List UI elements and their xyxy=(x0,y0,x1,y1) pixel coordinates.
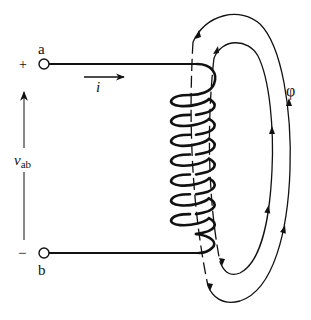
terminal-a-node xyxy=(39,59,49,69)
minus-sign: − xyxy=(18,245,26,261)
inner-flux-path xyxy=(214,43,272,275)
coil-turn xyxy=(171,135,215,155)
current-label: i xyxy=(96,79,100,95)
flux-arrowhead-icon xyxy=(269,126,275,134)
coil-exit xyxy=(196,234,214,253)
terminal-b-label: b xyxy=(38,262,46,278)
coil-turn xyxy=(171,214,215,234)
flux-arrowhead-icon xyxy=(213,46,219,54)
flux-arrowhead-icon xyxy=(264,205,271,214)
inner-flux-loop xyxy=(213,43,275,275)
flux-label: φ xyxy=(286,82,295,100)
plus-sign: + xyxy=(19,57,27,72)
terminal-a: a + xyxy=(19,41,49,72)
coil-turn xyxy=(171,194,215,214)
coil-turn xyxy=(171,115,215,135)
terminal-b: − b xyxy=(18,245,49,278)
coil-turn xyxy=(171,95,215,115)
voltage-arrow: vab xyxy=(14,92,32,240)
coil-turns xyxy=(171,95,215,234)
coil-turn xyxy=(171,174,215,194)
coil xyxy=(171,64,215,253)
terminal-b-node xyxy=(39,248,49,258)
current-arrow: i xyxy=(84,77,124,95)
inductor-flux-diagram: a + i vab − b xyxy=(0,0,311,320)
terminal-a-label: a xyxy=(38,41,45,57)
voltage-label: vab xyxy=(14,152,32,170)
